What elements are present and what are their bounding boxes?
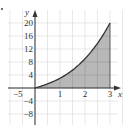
x-tick-label: 2 [83, 89, 88, 99]
y-tick-label: 12 [24, 44, 33, 54]
x-tick-label: 1 [58, 89, 63, 99]
y-axis-arrow-icon [33, 10, 38, 17]
y-tick-label: −8 [23, 109, 33, 119]
y-tick-label: −4 [23, 96, 33, 106]
y-tick-label: 16 [24, 31, 34, 41]
area-chart: 123−8−448121620 x y −5 [0, 0, 126, 127]
x-tick-label: 3 [108, 89, 113, 99]
y-tick-label: 8 [29, 57, 34, 67]
y-tick-label: 4 [29, 70, 34, 80]
x-tick-label-neg5: −5 [13, 89, 23, 99]
y-tick-label: 20 [24, 18, 34, 28]
y-axis-label: y [24, 7, 29, 17]
x-axis-label: x [117, 89, 122, 99]
